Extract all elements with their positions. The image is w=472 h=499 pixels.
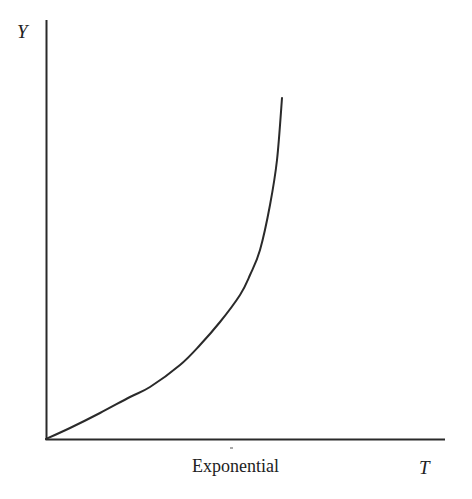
exponential-curve xyxy=(46,98,282,439)
chart-canvas xyxy=(0,0,472,499)
chart-caption: Exponential xyxy=(192,457,279,475)
y-axis-label: Y xyxy=(17,22,28,41)
x-axis-label: T xyxy=(419,458,430,477)
